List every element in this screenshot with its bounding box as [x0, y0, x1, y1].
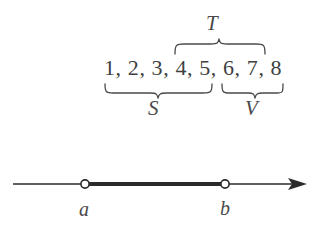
math-figure: T 1, 2, 3, 4, 5, 6, 7, 8 S V a b — [0, 0, 323, 234]
number-line — [0, 0, 323, 234]
endpoint-label-b: b — [220, 198, 230, 218]
endpoint-open-circle-a — [81, 180, 89, 188]
endpoint-label-a: a — [79, 199, 89, 219]
endpoint-open-circle-b — [221, 180, 229, 188]
